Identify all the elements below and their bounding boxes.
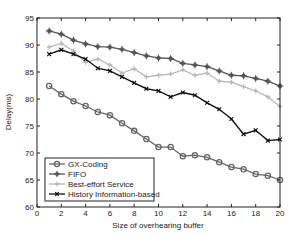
y-tick-label: 65 xyxy=(25,176,34,185)
star-marker xyxy=(240,72,247,79)
star-marker xyxy=(216,68,223,75)
star-marker xyxy=(155,55,162,62)
legend: GX-CodingFIFOBest-effort ServiceHistory … xyxy=(45,158,160,201)
x-tick-label: 20 xyxy=(276,209,285,218)
y-tick-label: 90 xyxy=(25,41,34,50)
x-axis-label: Size of overhearing buffer xyxy=(112,221,204,230)
x-tick-label: 8 xyxy=(132,209,137,218)
star-marker xyxy=(228,72,235,79)
star-marker xyxy=(82,41,89,48)
x-marker xyxy=(229,117,233,121)
x-tick-label: 0 xyxy=(35,209,40,218)
series-best-effort-service xyxy=(47,41,283,109)
series-line xyxy=(49,50,280,141)
x-tick-label: 6 xyxy=(108,209,113,218)
y-axis-label: Delay(ms) xyxy=(4,93,13,130)
x-tick-label: 16 xyxy=(227,209,236,218)
plus-marker xyxy=(180,67,185,72)
x-tick-label: 10 xyxy=(154,209,163,218)
y-tick-label: 70 xyxy=(25,149,34,158)
y-tick-label: 75 xyxy=(25,122,34,131)
plus-marker xyxy=(47,45,52,50)
x-tick-label: 4 xyxy=(83,209,88,218)
star-marker xyxy=(264,78,271,85)
y-tick-label: 85 xyxy=(25,68,34,77)
legend-label: Best-effort Service xyxy=(68,180,134,189)
star-marker xyxy=(252,75,259,82)
star-marker xyxy=(58,31,65,38)
star-marker xyxy=(167,55,174,62)
legend-label: GX-Coding xyxy=(68,160,108,169)
plus-marker xyxy=(95,57,100,62)
star-marker xyxy=(119,46,126,53)
legend-label: FIFO xyxy=(68,170,86,179)
plus-marker xyxy=(168,72,173,77)
star-marker xyxy=(131,49,138,56)
plus-marker xyxy=(253,89,258,94)
plus-marker xyxy=(156,73,161,78)
delay-line-chart: 024681012141618206065707580859095 Size o… xyxy=(0,0,300,238)
y-tick-label: 60 xyxy=(25,203,34,212)
series-history-information-based xyxy=(47,48,282,143)
star-marker xyxy=(204,63,211,70)
star-marker xyxy=(70,37,77,44)
plus-marker xyxy=(241,84,246,89)
star-marker xyxy=(94,43,101,50)
x-tick-label: 18 xyxy=(251,209,260,218)
star-marker xyxy=(192,62,199,69)
plus-marker xyxy=(229,80,234,85)
x-tick-label: 12 xyxy=(178,209,187,218)
star-marker xyxy=(46,28,53,35)
y-tick-label: 80 xyxy=(25,95,34,104)
x-tick-label: 14 xyxy=(203,209,212,218)
y-tick-label: 95 xyxy=(25,14,34,23)
plus-marker xyxy=(193,73,198,78)
x-tick-label: 2 xyxy=(59,209,64,218)
star-marker xyxy=(179,60,186,67)
star-marker xyxy=(107,44,114,51)
star-marker xyxy=(143,52,150,59)
legend-label: History Information-based xyxy=(68,190,160,199)
